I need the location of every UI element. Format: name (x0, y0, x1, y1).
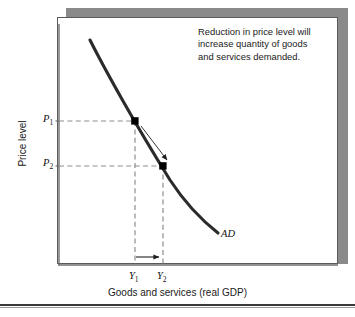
ad-curve-figure: Reduction in price level will increase q… (0, 0, 355, 317)
annotation-line-2: increase quantity of goods (198, 38, 330, 50)
tick-label-y1: Y1 (129, 270, 139, 284)
tick-label-p2: P2 (43, 157, 53, 171)
x-axis-title: Goods and services (real GDP) (0, 287, 355, 298)
tick-label-p2-sub: 2 (49, 162, 53, 171)
marker-point-p1y1 (131, 117, 138, 124)
tick-label-p1-sub: 1 (49, 118, 53, 127)
annotation-line-1: Reduction in price level will (198, 26, 330, 38)
ad-curve (90, 40, 218, 233)
tick-label-p1: P1 (43, 113, 53, 127)
footer-divider-light (0, 307, 355, 308)
tick-label-y1-sub: 1 (135, 275, 139, 284)
annotation-text: Reduction in price level will increase q… (198, 26, 330, 63)
footer-divider (0, 304, 355, 306)
y-axis-title: Price level (17, 99, 28, 189)
tick-label-y2-sub: 2 (163, 275, 167, 284)
tick-label-y2: Y2 (157, 270, 167, 284)
annotation-line-3: and services demanded. (198, 51, 330, 63)
ad-curve-label: AD (221, 228, 235, 239)
marker-point-p2y2 (159, 162, 166, 169)
